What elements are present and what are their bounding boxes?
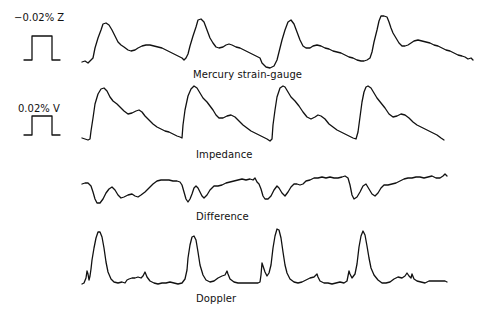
calibration-pulse-v [24, 116, 60, 135]
trace-impedance [82, 86, 444, 141]
figure-caption-cropped [0, 316, 489, 325]
trace-doppler [82, 229, 447, 284]
waveform-traces [0, 0, 489, 325]
waveform-figure: −0.02% Z 0.02% V Mercury strain-gauge Im… [0, 0, 489, 325]
trace-mercury-strain-gauge [82, 16, 473, 68]
trace-difference [82, 174, 447, 203]
calibration-pulse-z [24, 36, 60, 60]
